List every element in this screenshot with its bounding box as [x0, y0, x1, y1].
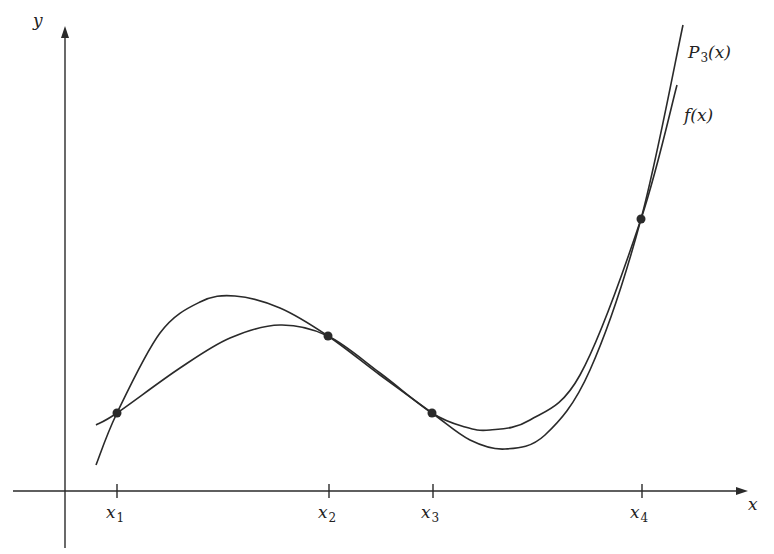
plot-area: [0, 0, 774, 554]
p3-arg: (x): [708, 42, 731, 62]
tick-label-x4: x4: [630, 504, 648, 521]
x-axis-arrow-icon: [736, 487, 748, 495]
node-point-x4: [637, 215, 646, 224]
f-curve: [96, 85, 677, 430]
p3-curve: [96, 25, 683, 465]
p3-name: P: [688, 42, 699, 62]
chart-canvas: y x P3(x) f(x) x1 x2 x3 x4: [0, 0, 774, 554]
x-axis-label: x: [748, 496, 758, 513]
f-legend-label: f(x): [684, 107, 713, 124]
p3-legend-label: P3(x): [688, 44, 731, 61]
tick-label-x2: x2: [318, 504, 336, 521]
node-point-x1: [113, 409, 122, 418]
tick-label-x3: x3: [421, 504, 439, 521]
tick-label-x1: x1: [106, 504, 124, 521]
y-axis-arrow-icon: [61, 26, 69, 38]
interpolation-nodes: [113, 215, 646, 418]
node-point-x2: [324, 332, 333, 341]
y-axis-label: y: [33, 12, 43, 29]
node-point-x3: [428, 409, 437, 418]
p3-subscript: 3: [700, 51, 708, 65]
